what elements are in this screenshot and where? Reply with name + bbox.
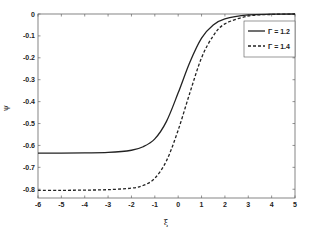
x-tick-label: -3 xyxy=(105,201,111,208)
y-tick-label: 0 xyxy=(31,11,35,18)
legend-item-gamma-1-4: Γ = 1.4 xyxy=(268,43,290,50)
x-tick-label: 5 xyxy=(293,201,297,208)
y-tick-label: -0.4 xyxy=(23,98,35,105)
x-tick-label: -2 xyxy=(128,201,134,208)
legend: Γ = 1.2 Γ = 1.4 xyxy=(244,21,295,57)
x-tick-label: -4 xyxy=(82,201,88,208)
legend-item-gamma-1-2: Γ = 1.2 xyxy=(268,28,290,35)
x-axis-label: ξ xyxy=(164,218,169,227)
y-tick-label: -0.2 xyxy=(23,54,35,61)
x-tick-label: 2 xyxy=(223,201,227,208)
x-tick-label: -1 xyxy=(152,201,158,208)
y-tick-label: -0.5 xyxy=(23,120,35,127)
x-tick-label: -6 xyxy=(35,201,41,208)
y-tick-label: -0.6 xyxy=(23,142,35,149)
y-tick-label: -0.1 xyxy=(23,32,35,39)
x-tick-label: 3 xyxy=(246,201,250,208)
y-tick-label: -0.3 xyxy=(23,76,35,83)
y-tick-label: -0.8 xyxy=(23,186,35,193)
x-tick-label: -5 xyxy=(58,201,64,208)
y-axis-label: ψ xyxy=(1,105,10,111)
x-tick-label: 1 xyxy=(200,201,204,208)
y-tick-label: -0.7 xyxy=(23,164,35,171)
line-chart: -6-5-4-3-2-10123450-0.1-0.2-0.3-0.4-0.5-… xyxy=(0,0,309,230)
x-tick-label: 4 xyxy=(270,201,274,208)
x-tick-label: 0 xyxy=(176,201,180,208)
